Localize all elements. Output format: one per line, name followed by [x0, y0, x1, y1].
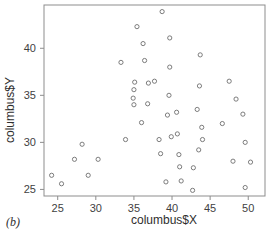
x-tick-label: 50 — [242, 202, 254, 214]
figure-background — [0, 0, 273, 234]
plot-canvas: 253035404550 25303540 columbus$X columbu… — [0, 0, 273, 234]
y-axis-title: columbus$Y — [3, 77, 17, 143]
y-tick-label: 35 — [24, 89, 36, 101]
scatter-plot-figure: 253035404550 25303540 columbus$X columbu… — [0, 0, 273, 234]
panel-label: (b) — [6, 215, 20, 229]
x-tick-label: 30 — [90, 202, 102, 214]
x-tick-label: 25 — [52, 202, 64, 214]
y-tick-label: 30 — [24, 136, 36, 148]
x-axis-title: columbus$X — [131, 213, 197, 227]
y-tick-label: 40 — [24, 42, 36, 54]
y-tick-label: 25 — [24, 183, 36, 195]
x-tick-label: 45 — [204, 202, 216, 214]
